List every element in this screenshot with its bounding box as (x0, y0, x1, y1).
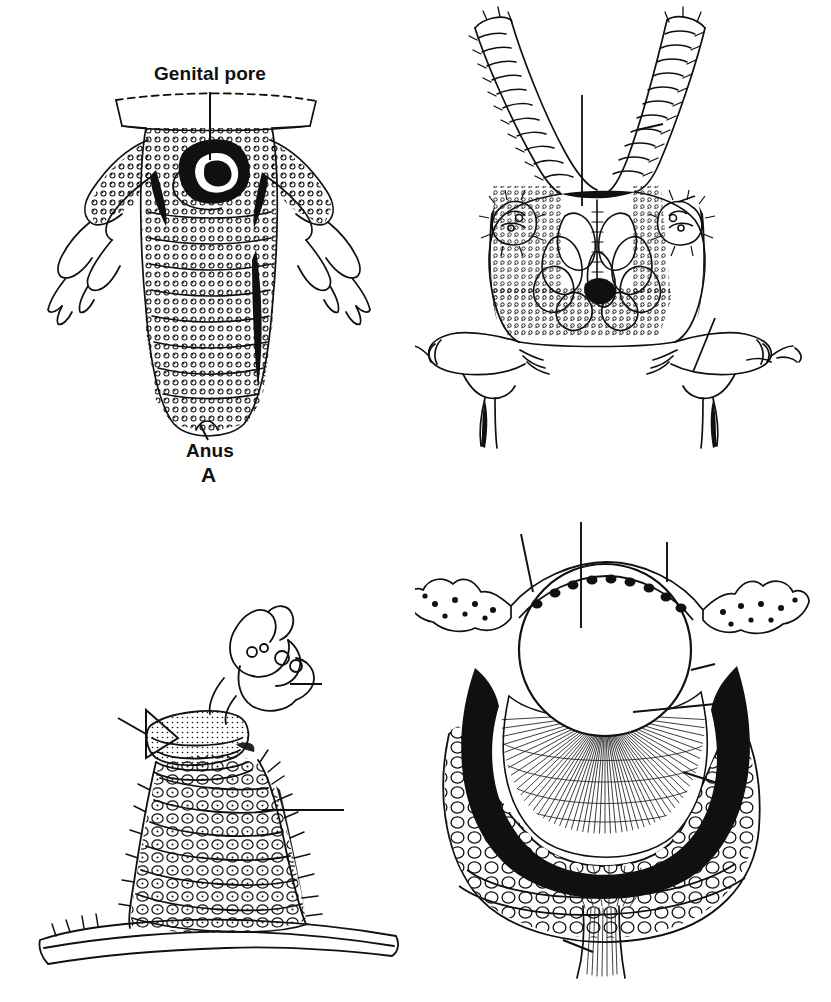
illustration-plate: Genital pore Anus A (0, 0, 831, 1002)
oral-papilla-leader (678, 196, 695, 202)
panel-b-drawing (415, 0, 831, 500)
label-anus: Anus (168, 440, 252, 461)
pigment-leader (691, 664, 715, 670)
spiniferous-pads-leader-stem (118, 718, 146, 734)
panel-a-posterior-end: Genital pore Anus A (0, 0, 415, 500)
panel-d-drawing (415, 500, 831, 1002)
panel-b-head: Tongue Antenna Oral papilla Leg B (415, 0, 831, 500)
cornea-leader (521, 534, 533, 592)
panel-letter-a: A (201, 464, 216, 486)
panel-c-drawing (0, 500, 415, 1002)
lens-structure (519, 564, 691, 736)
leg-leader (693, 318, 715, 372)
label-genital-pore: Genital pore (120, 63, 300, 84)
panel-c-leg: Spiniferous pads Foot Leg C (0, 500, 415, 1002)
panel-d-eye-section: Cornea Lens Skin Pigment Retina Optic ga… (415, 500, 831, 1002)
